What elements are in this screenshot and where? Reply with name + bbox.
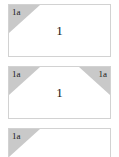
card-1[interactable]: 1a 1 [8,4,111,57]
card-center-value: 1 [9,85,110,100]
card-3[interactable]: 1a [8,128,111,157]
diagram-canvas: 1a 1 1a 1a 1 1a [0,0,119,157]
corner-label: 1a [12,7,21,17]
corner-flag-top-left[interactable]: 1a [9,129,40,157]
corner-label: 1a [12,131,21,141]
card-2[interactable]: 1a 1a 1 [8,66,111,119]
card-center-value: 1 [9,23,110,38]
corner-label: 1a [99,69,108,79]
corner-label: 1a [12,69,21,79]
